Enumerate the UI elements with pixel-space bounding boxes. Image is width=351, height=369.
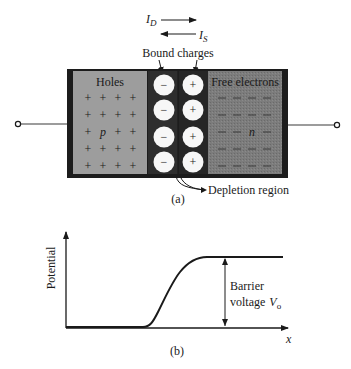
svg-text:−: −	[161, 78, 168, 92]
svg-text:+: +	[130, 159, 137, 173]
svg-text:+: +	[130, 125, 137, 139]
svg-text:+: +	[85, 142, 92, 156]
y-axis-label: Potential	[44, 246, 58, 289]
x-axis-label: x	[285, 332, 292, 346]
barrier-label-line2: voltageVo	[230, 295, 282, 311]
depletion-pointer-icon	[176, 176, 205, 190]
depletion-arrowhead-icon	[201, 187, 207, 193]
svg-text:+: +	[115, 91, 122, 105]
svg-text:+: +	[115, 159, 122, 173]
svg-text:+: +	[85, 159, 92, 173]
svg-text:+: +	[100, 108, 107, 122]
barrier-label-line1: Barrier	[230, 279, 264, 293]
arrow-up-icon	[222, 258, 228, 265]
svg-text:+: +	[100, 159, 107, 173]
svg-text:+: +	[190, 130, 197, 144]
svg-text:+: +	[190, 78, 197, 92]
bound-charges-label: Bound charges	[142, 46, 214, 60]
svg-text:+: +	[100, 142, 107, 156]
drift-current-indicator: ID	[145, 12, 196, 28]
svg-text:+: +	[100, 91, 107, 105]
caption-b: (b)	[170, 344, 184, 358]
svg-text:+: +	[85, 91, 92, 105]
potential-graph: Potential x Barrier voltageVo	[44, 232, 292, 346]
n-region: Free electrons n	[208, 71, 282, 174]
pn-junction-figure: ID IS Bound charges Holes ++++ ++++ +++ …	[0, 0, 351, 369]
svg-text:+: +	[130, 142, 137, 156]
svg-text:−: −	[161, 130, 168, 144]
diffusion-current-indicator: IS	[161, 28, 208, 44]
svg-text:+: +	[130, 108, 137, 122]
n-region-title: Free electrons	[211, 75, 279, 89]
svg-text:+: +	[85, 125, 92, 139]
svg-text:+: +	[85, 108, 92, 122]
p-region-title: Holes	[96, 75, 124, 89]
svg-text:−: −	[161, 155, 168, 169]
is-label: IS	[198, 28, 208, 44]
svg-text:+: +	[190, 103, 197, 117]
depletion-region-label: Depletion region	[208, 183, 289, 197]
svg-text:+: +	[115, 142, 122, 156]
caption-a: (a)	[171, 192, 184, 206]
depletion-region: − − − − + + + +	[148, 71, 208, 174]
svg-text:−: −	[161, 103, 168, 117]
svg-text:+: +	[115, 125, 122, 139]
svg-text:+: +	[130, 91, 137, 105]
id-label: ID	[145, 12, 157, 28]
n-type-letter: n	[249, 125, 255, 139]
right-terminal-icon	[334, 122, 339, 127]
p-type-letter: p	[99, 125, 106, 139]
svg-text:+: +	[190, 155, 197, 169]
left-terminal-icon	[15, 121, 20, 126]
arrow-down-icon	[222, 319, 228, 326]
p-region: Holes ++++ ++++ +++ ++++ ++++ p	[73, 71, 147, 174]
svg-text:+: +	[115, 108, 122, 122]
